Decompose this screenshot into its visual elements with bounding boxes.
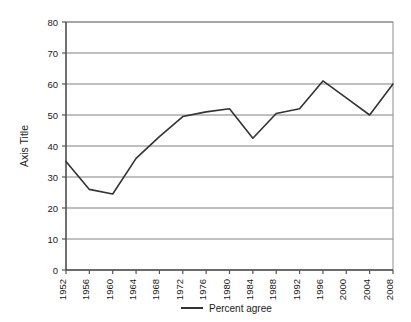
- x-tick-label-2008: 2008: [384, 279, 395, 300]
- x-tick-label-1976: 1976: [197, 279, 208, 300]
- y-tick-label-50: 50: [47, 110, 58, 121]
- x-tick-label-1952: 1952: [57, 279, 68, 300]
- x-tick-label-1984: 1984: [244, 279, 255, 300]
- y-tick-label-70: 70: [47, 48, 58, 59]
- y-tick-labels: 01020304050607080: [47, 17, 58, 276]
- x-tick-labels: 1952195619601964196819721976198019841988…: [57, 279, 395, 300]
- x-tick-label-1968: 1968: [150, 279, 161, 300]
- x-tick-label-1956: 1956: [80, 279, 91, 300]
- y-tick-label-60: 60: [47, 79, 58, 90]
- legend-label-percent-agree: Percent agree: [209, 303, 272, 314]
- x-tick-label-1988: 1988: [267, 279, 278, 300]
- y-tick-label-0: 0: [53, 265, 58, 276]
- y-axis-title: Axis Title: [18, 125, 30, 167]
- y-tick-label-30: 30: [47, 172, 58, 183]
- y-tick-label-20: 20: [47, 203, 58, 214]
- x-tick-label-1996: 1996: [314, 279, 325, 300]
- chart-container: 01020304050607080 1952195619601964196819…: [0, 0, 411, 322]
- x-tick-label-1960: 1960: [104, 279, 115, 300]
- y-tick-label-10: 10: [47, 234, 58, 245]
- y-tick-label-80: 80: [47, 17, 58, 28]
- x-tick-label-1972: 1972: [174, 279, 185, 300]
- x-tick-label-2000: 2000: [337, 279, 348, 300]
- x-tick-label-1964: 1964: [127, 279, 138, 300]
- x-tick-label-2004: 2004: [361, 279, 372, 300]
- chart-background: [0, 0, 411, 322]
- x-tick-label-1992: 1992: [291, 279, 302, 300]
- y-tick-label-40: 40: [47, 141, 58, 152]
- line-chart: 01020304050607080 1952195619601964196819…: [0, 0, 411, 322]
- x-tick-label-1980: 1980: [221, 279, 232, 300]
